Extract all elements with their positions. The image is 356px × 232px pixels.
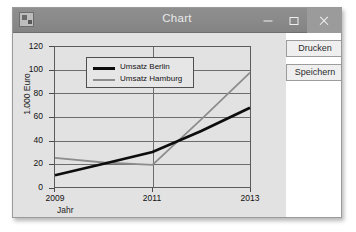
y-tick-label: 100 [21,65,43,73]
x-tick-label: 2013 [232,193,268,203]
legend-swatch-hamburg [93,79,115,81]
y-tick-label: 20 [21,159,43,167]
screenshot-root: Chart 1.000 Euro 120 100 80 60 40 20 0 [0,0,356,232]
legend-label: Umsatz Berlin [120,62,170,71]
x-axis-label: Jahr [57,205,74,215]
window-client-area: 1.000 Euro 120 100 80 60 40 20 0 [13,33,341,217]
line-chart: 1.000 Euro 120 100 80 60 40 20 0 [13,33,286,218]
plot-area: Umsatz Berlin Umsatz Hamburg [54,46,251,188]
legend-label: Umsatz Hamburg [120,74,182,83]
chart-legend: Umsatz Berlin Umsatz Hamburg [86,57,194,88]
y-tick-label: 80 [21,89,43,97]
x-tick-label: 2011 [134,193,170,203]
print-button[interactable]: Drucken [286,40,342,57]
legend-swatch-berlin [93,67,115,70]
side-panel: Drucken Speichern [286,33,341,217]
chart-panel: 1.000 Euro 120 100 80 60 40 20 0 [13,33,286,217]
y-tick-label: 0 [21,183,43,191]
chart-window: Chart 1.000 Euro 120 100 80 60 40 20 0 [12,7,342,218]
x-tick-label: 2009 [37,193,73,203]
minimize-icon[interactable] [255,8,281,33]
window-controls [255,8,341,33]
save-button[interactable]: Speichern [286,64,342,81]
window-titlebar: Chart [13,8,341,33]
y-tick-label: 40 [21,136,43,144]
y-tick-label: 120 [21,42,43,50]
maximize-icon[interactable] [281,8,307,33]
close-icon[interactable] [307,8,341,33]
y-tick-label: 60 [21,112,43,120]
